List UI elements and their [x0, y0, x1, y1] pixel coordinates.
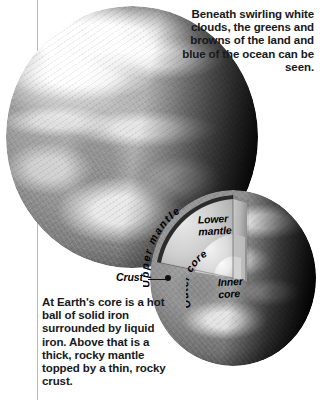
illustration-canvas: Crust Upper mantle Lower mantle Outer co… [0, 0, 332, 400]
inner-core-line2: core [218, 286, 263, 300]
outer-core-text: Outer core [186, 248, 209, 310]
svg-text:Upper mantle: Upper mantle [143, 204, 183, 289]
svg-text:Outer core: Outer core [186, 248, 209, 310]
callout-bottom-left: At Earth's core is a hot ball of solid i… [42, 296, 178, 388]
label-lower-mantle: Lower mantle [197, 211, 258, 237]
label-inner-core: Inner core [217, 275, 262, 300]
upper-mantle-text: Upper mantle [143, 204, 183, 289]
label-crust: Crust [116, 272, 143, 284]
callout-top-right: Beneath swirling white clouds, the green… [174, 8, 314, 74]
